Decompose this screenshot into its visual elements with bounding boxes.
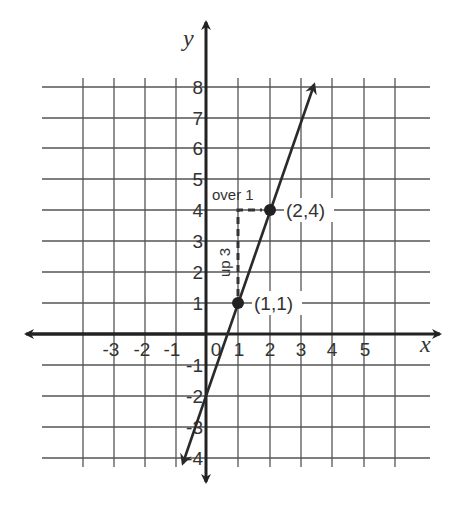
x-tick-labels: -3 -2 -1 0 1 2 3 4 5 [103,339,371,360]
point-1-1 [232,297,244,309]
y-tick-label: 1 [192,293,203,314]
x-tick-label: 3 [296,339,307,360]
point-2-4 [264,204,276,216]
x-tick-label: -3 [103,339,120,360]
x-tick-label: 1 [234,339,245,360]
over-1-label: over 1 [212,186,254,203]
y-tick-label: 5 [192,169,203,190]
y-axis-label: y [181,25,194,51]
y-tick-label: -1 [186,355,203,376]
y-tick-label: 2 [192,262,203,283]
y-tick-label: 7 [192,108,203,129]
y-tick-label: 6 [192,138,203,159]
x-tick-label: -2 [134,339,151,360]
y-tick-label: -4 [186,448,203,469]
point-2-4-label: (2,4) [286,200,325,221]
point-1-1-label: (1,1) [254,293,293,314]
y-tick-label: 3 [192,231,203,252]
y-tick-label: 4 [192,200,203,221]
grid-lines [42,78,430,467]
rise-run-dashed-path [238,210,262,296]
y-tick-label: 8 [192,77,203,98]
x-tick-label: -1 [164,339,181,360]
x-axis-label: x [419,331,431,357]
x-tick-label: 2 [265,339,276,360]
up-3-label: up 3 [216,248,233,277]
y-tick-label: -2 [186,386,203,407]
coordinate-plane: x y -3 -2 -1 0 1 2 3 4 5 8 7 6 5 4 3 2 1… [0,0,470,509]
x-tick-label: 5 [360,339,371,360]
x-tick-label: 4 [327,339,338,360]
